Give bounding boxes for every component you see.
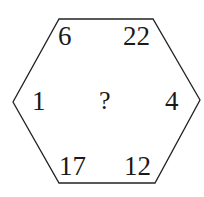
number-top-left: 6 xyxy=(58,23,72,50)
number-middle-right: 4 xyxy=(165,88,179,115)
number-middle-left: 1 xyxy=(32,88,46,115)
number-bottom-left: 17 xyxy=(59,153,86,180)
number-top-right: 22 xyxy=(123,23,150,50)
hexagon-number-puzzle: 6 22 1 ? 4 17 12 xyxy=(0,0,204,197)
unknown-center: ? xyxy=(99,88,111,114)
number-bottom-right: 12 xyxy=(124,153,151,180)
